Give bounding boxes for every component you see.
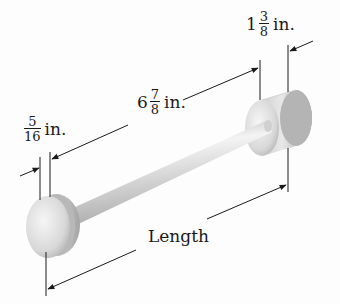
fraction-numerator: 3 [259,10,269,24]
fraction: 3 8 [259,10,269,38]
left-end-cap [26,194,80,258]
length-label: Length [148,228,209,245]
rod-shaft [64,120,272,228]
left-cap-dimension-label: 5 16 in. [24,115,66,143]
diagram-drawing [0,0,340,304]
fraction: 7 8 [150,88,160,116]
whole-number: 6 [137,92,148,112]
fraction-denominator: 16 [24,129,41,143]
unit-label: in. [273,14,295,34]
fraction-numerator: 5 [24,115,41,129]
unit-label: in. [164,92,186,112]
fraction-denominator: 8 [150,102,160,116]
dumbbell-rod-diagram: 5 16 in. 6 7 8 in. 1 3 8 in. Length [0,0,340,304]
right-cap-dimension-label: 1 3 8 in. [246,10,295,38]
whole-number: 1 [246,14,257,34]
fraction-denominator: 8 [259,24,269,38]
fraction: 5 16 [24,115,41,143]
unit-label: in. [45,119,67,139]
right-end-cap [245,90,312,156]
rod-dimension-label: 6 7 8 in. [137,88,186,116]
fraction-numerator: 7 [150,88,160,102]
